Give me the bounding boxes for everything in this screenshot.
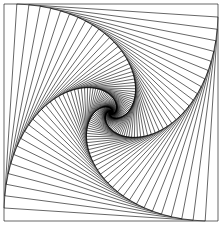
square-outline: [11, 11, 211, 214]
square-outline: [88, 89, 133, 135]
square-outline: [14, 14, 208, 211]
square-outline: [92, 93, 131, 132]
square-outline: [67, 68, 155, 158]
square-outline: [46, 46, 176, 178]
square-outline: [93, 95, 128, 131]
square-outline: [4, 4, 218, 221]
square-outline: [33, 33, 189, 191]
square-outline: [91, 92, 132, 133]
square-outline: [17, 17, 205, 207]
square-outline: [55, 55, 168, 170]
square-outline: [21, 21, 201, 204]
square-outline: [71, 72, 152, 154]
nested-squares-group: [4, 4, 218, 221]
square-outline: [50, 51, 172, 174]
whirl-diagram: [0, 0, 223, 232]
square-outline: [37, 38, 185, 188]
square-outline: [25, 25, 198, 200]
square-outline: [4, 4, 218, 221]
square-outline: [110, 112, 111, 113]
